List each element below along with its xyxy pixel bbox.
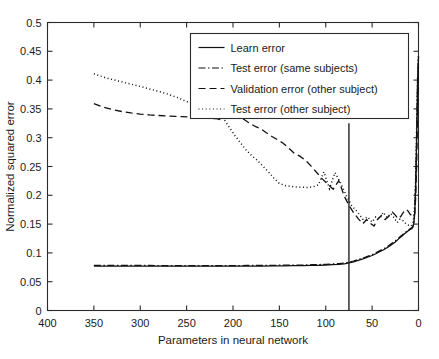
y-tick-label: 0.05 — [20, 276, 41, 288]
y-tick-label: 0.1 — [26, 247, 41, 259]
y-tick-label: 0.15 — [20, 218, 41, 230]
y-tick-label: 0 — [35, 305, 41, 317]
legend-label-0: Learn error — [231, 42, 286, 54]
x-tick-label: 150 — [270, 317, 288, 329]
y-tick-label: 0.2 — [26, 189, 41, 201]
x-tick-label: 0 — [415, 317, 421, 329]
y-tick-label: 0.4 — [26, 74, 41, 86]
x-tick-label: 200 — [224, 317, 242, 329]
legend-label-1: Test error (same subjects) — [231, 62, 358, 74]
y-tick-label: 0.45 — [20, 45, 41, 57]
legend-label-3: Test error (other subject) — [231, 103, 351, 115]
y-tick-label: 0.5 — [26, 17, 41, 29]
x-tick-label: 400 — [38, 317, 56, 329]
y-tick-label: 0.3 — [26, 132, 41, 144]
x-tick-label: 250 — [177, 317, 195, 329]
x-tick-label: 50 — [366, 317, 378, 329]
y-axis-title: Normalized squared error — [4, 101, 16, 232]
legend-label-2: Validation error (other subject) — [231, 83, 378, 95]
x-tick-label: 100 — [317, 317, 335, 329]
y-tick-label: 0.35 — [20, 103, 41, 115]
figure-container: 00.050.10.150.20.250.30.350.40.450.54003… — [0, 0, 439, 359]
y-tick-label: 0.25 — [20, 161, 41, 173]
chart-canvas: 00.050.10.150.20.250.30.350.40.450.54003… — [0, 0, 439, 359]
x-axis-title: Parameters in neural network — [158, 334, 308, 346]
x-tick-label: 300 — [131, 317, 149, 329]
x-tick-label: 350 — [85, 317, 103, 329]
